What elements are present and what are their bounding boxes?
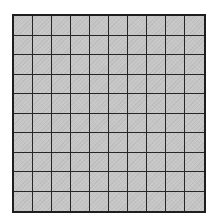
grid-cell <box>14 172 33 192</box>
grid-cell <box>90 94 109 114</box>
grid-10x10 <box>12 14 206 213</box>
grid-cell <box>147 192 166 212</box>
grid-cell <box>90 153 109 173</box>
grid-cell <box>71 153 90 173</box>
grid-cell <box>90 75 109 95</box>
grid-cell <box>128 16 147 36</box>
grid-cell <box>33 172 52 192</box>
grid-cell <box>52 133 71 153</box>
grid-cell <box>147 114 166 134</box>
grid-cell <box>52 192 71 212</box>
grid-cell <box>147 153 166 173</box>
grid-cell <box>147 94 166 114</box>
grid-cell <box>90 114 109 134</box>
grid-cell <box>90 36 109 56</box>
grid-cell <box>109 55 128 75</box>
grid-cell <box>166 192 185 212</box>
grid-cell <box>52 94 71 114</box>
grid-cell <box>128 36 147 56</box>
grid-cell <box>185 36 204 56</box>
grid-cell <box>128 133 147 153</box>
grid-cell <box>109 133 128 153</box>
grid-cell <box>147 133 166 153</box>
grid-cell <box>14 114 33 134</box>
grid-cell <box>14 75 33 95</box>
grid-cell <box>71 16 90 36</box>
grid-cell <box>33 75 52 95</box>
grid-cell <box>128 55 147 75</box>
grid-cell <box>33 94 52 114</box>
grid-cell <box>185 133 204 153</box>
grid-cell <box>166 94 185 114</box>
grid-cell <box>128 172 147 192</box>
grid-cell <box>166 75 185 95</box>
grid-cell <box>166 16 185 36</box>
grid-cell <box>71 114 90 134</box>
grid-cell <box>71 75 90 95</box>
grid-cell <box>90 55 109 75</box>
grid-cell <box>52 153 71 173</box>
grid-cell <box>14 94 33 114</box>
grid-cell <box>128 153 147 173</box>
grid-cell <box>147 75 166 95</box>
grid-cell <box>14 55 33 75</box>
grid-cell <box>71 133 90 153</box>
grid-cell <box>128 94 147 114</box>
grid-cell <box>185 114 204 134</box>
grid-cell <box>52 114 71 134</box>
grid-cell <box>109 172 128 192</box>
grid-cell <box>33 192 52 212</box>
grid-cell <box>14 153 33 173</box>
grid-cell <box>166 133 185 153</box>
grid-cell <box>33 114 52 134</box>
grid-cell <box>128 75 147 95</box>
grid-cell <box>109 192 128 212</box>
grid-cell <box>147 172 166 192</box>
grid-cell <box>128 114 147 134</box>
grid-cell <box>14 192 33 212</box>
grid-cell <box>109 36 128 56</box>
grid-cell <box>71 55 90 75</box>
grid-cell <box>166 153 185 173</box>
grid-cell <box>33 153 52 173</box>
grid-cell <box>52 75 71 95</box>
grid-cell <box>90 16 109 36</box>
grid-cell <box>147 55 166 75</box>
grid-cell <box>185 94 204 114</box>
grid-cell <box>185 75 204 95</box>
grid-cell <box>33 36 52 56</box>
grid-cell <box>90 133 109 153</box>
grid-cell <box>71 36 90 56</box>
grid-cell <box>128 192 147 212</box>
grid-cell <box>109 75 128 95</box>
grid-cell <box>109 114 128 134</box>
grid-cell <box>71 172 90 192</box>
grid-cell <box>71 94 90 114</box>
grid-cell <box>52 172 71 192</box>
grid-cell <box>185 55 204 75</box>
grid-cell <box>33 55 52 75</box>
grid-cell <box>185 172 204 192</box>
grid-cell <box>185 16 204 36</box>
grid-cell <box>185 192 204 212</box>
grid-cell <box>33 16 52 36</box>
grid-cell <box>109 16 128 36</box>
grid-cell <box>14 16 33 36</box>
grid-cell <box>166 172 185 192</box>
grid-cell <box>52 55 71 75</box>
grid-cell <box>147 36 166 56</box>
grid-cell <box>90 172 109 192</box>
grid-cell <box>185 153 204 173</box>
grid-cell <box>52 16 71 36</box>
grid-cell <box>71 192 90 212</box>
grid-cell <box>166 36 185 56</box>
grid-cell <box>14 133 33 153</box>
grid-cell <box>109 94 128 114</box>
grid-cell <box>109 153 128 173</box>
grid-cell <box>14 36 33 56</box>
grid-cell <box>147 16 166 36</box>
grid-cell <box>166 114 185 134</box>
grid-cell <box>33 133 52 153</box>
grid-cell <box>52 36 71 56</box>
grid-cell <box>90 192 109 212</box>
